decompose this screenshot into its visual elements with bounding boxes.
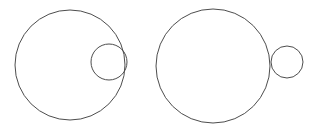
external-small-circle bbox=[271, 46, 303, 78]
external-large-circle bbox=[156, 9, 270, 123]
panel-internal-tangency bbox=[15, 10, 127, 120]
internal-large-circle bbox=[15, 10, 125, 120]
tangent-circles-figure bbox=[0, 0, 314, 131]
panel-external-tangency bbox=[156, 9, 303, 123]
internal-small-circle bbox=[91, 44, 127, 80]
figure-canvas bbox=[0, 0, 314, 131]
